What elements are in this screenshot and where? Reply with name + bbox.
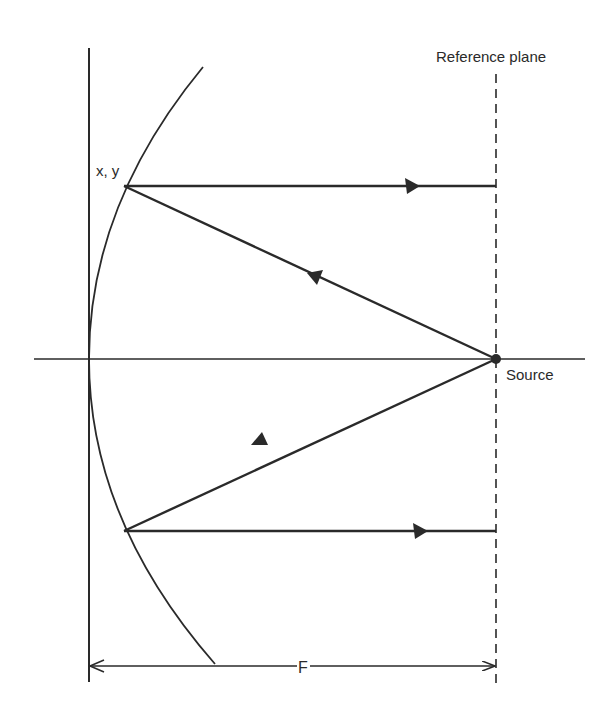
upper-reflected-arrow-icon [405, 178, 420, 194]
lower-reflected-arrow-icon [413, 523, 428, 539]
reference-plane-label: Reference plane [436, 48, 546, 65]
source-label: Source [506, 366, 554, 383]
reflector-diagram: Reference plane x, y Source F [0, 0, 611, 721]
source-point [491, 354, 501, 364]
focal-length-label: F [298, 659, 308, 676]
lower-incident-ray [124, 359, 496, 531]
lower-incident-arrow-icon [251, 432, 268, 445]
reflector-curve [89, 67, 215, 664]
point-label: x, y [96, 162, 120, 179]
